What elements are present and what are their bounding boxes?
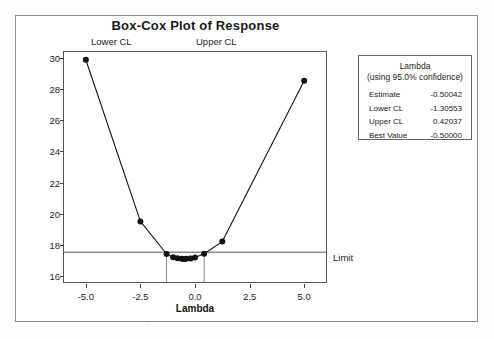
legend-row-value: -0.50000: [430, 129, 462, 143]
lower-cl-caption: Lower CL: [91, 36, 132, 47]
y-tick-label: 20: [30, 208, 60, 219]
boxcox-curve-svg: [64, 52, 326, 282]
x-tick-label: -5.0: [78, 291, 94, 302]
x-tick-label: 5.0: [298, 291, 311, 302]
y-tick-mark: [60, 151, 64, 152]
x-tick-mark: [195, 284, 196, 288]
legend-row: Upper CL0.42037: [359, 115, 471, 129]
data-point: [219, 239, 225, 245]
legend-title-line2: (using 95.0% confidence): [359, 72, 471, 83]
data-point: [164, 251, 170, 257]
page-title: Box-Cox Plot of Response: [63, 18, 328, 33]
legend-row-label: Lower CL: [369, 102, 403, 116]
x-tick-mark: [86, 284, 87, 288]
y-tick-label: 30: [30, 53, 60, 64]
legend-rows: Estimate-0.50042Lower CL-1.30553Upper CL…: [359, 88, 471, 142]
y-tick-label: 28: [30, 84, 60, 95]
data-point: [137, 218, 143, 224]
x-tick-label: 0.0: [188, 291, 201, 302]
upper-cl-caption: Upper CL: [196, 36, 237, 47]
x-tick-mark: [140, 284, 141, 288]
y-axis: 1618202224262830: [26, 51, 60, 283]
y-tick-mark: [60, 214, 64, 215]
y-tick-label: 26: [30, 115, 60, 126]
x-axis-title: Lambda: [63, 303, 327, 314]
data-markers: [83, 57, 307, 262]
y-tick-label: 16: [30, 270, 60, 281]
data-point: [83, 57, 89, 63]
data-line: [86, 60, 304, 259]
legend-row-value: 0.42037: [433, 115, 462, 129]
x-tick-label: 2.5: [243, 291, 256, 302]
data-point: [201, 251, 207, 257]
legend-row: Lower CL-1.30553: [359, 102, 471, 116]
y-tick-mark: [60, 276, 64, 277]
y-tick-mark: [60, 89, 64, 90]
y-tick-mark: [60, 183, 64, 184]
legend-row-label: Estimate: [369, 88, 400, 102]
y-tick-mark: [60, 120, 64, 121]
legend-title-line1: Lambda: [359, 61, 471, 72]
x-tick-label: -2.5: [132, 291, 148, 302]
y-tick-label: 18: [30, 239, 60, 250]
legend-row: Estimate-0.50042: [359, 88, 471, 102]
limit-line-label: Limit: [333, 252, 353, 263]
data-point: [192, 254, 198, 260]
y-tick-label: 22: [30, 177, 60, 188]
legend-row-label: Best Value: [369, 129, 407, 143]
legend-row-value: -1.30553: [430, 102, 462, 116]
y-tick-label: 24: [30, 146, 60, 157]
y-tick-mark: [60, 245, 64, 246]
y-tick-mark: [60, 58, 64, 59]
legend-row: Best Value-0.50000: [359, 129, 471, 143]
legend-row-value: -0.50042: [430, 88, 462, 102]
data-point: [301, 78, 307, 84]
x-tick-mark: [250, 284, 251, 288]
plot-area: [63, 51, 327, 283]
x-tick-mark: [304, 284, 305, 288]
legend-panel: Lambda (using 95.0% confidence) Estimate…: [358, 55, 472, 140]
legend-row-label: Upper CL: [369, 115, 403, 129]
